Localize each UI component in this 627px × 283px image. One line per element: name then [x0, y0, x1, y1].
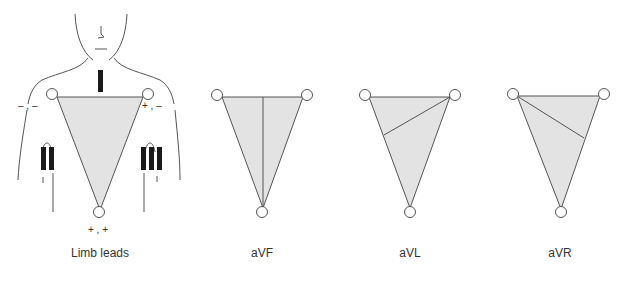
avl-triangle	[360, 90, 461, 218]
avf-label: aVF	[212, 246, 312, 260]
right-arm-polarity: – , –	[18, 100, 37, 111]
lead-ii-bars	[41, 147, 54, 170]
avr-label: aVR	[510, 246, 610, 260]
avl-label: aVL	[360, 246, 460, 260]
lead-i-bar	[98, 70, 103, 92]
limb-leads-label: Limb leads	[50, 246, 150, 260]
left-leg-polarity: + , +	[88, 224, 108, 235]
avf-triangle	[212, 90, 313, 218]
left-arm-polarity: + , –	[142, 100, 162, 111]
lead-iii-bars	[141, 147, 162, 170]
ecg-leads-diagram	[0, 0, 627, 283]
limb-leads-triangle	[47, 89, 154, 218]
avr-triangle	[508, 89, 610, 218]
